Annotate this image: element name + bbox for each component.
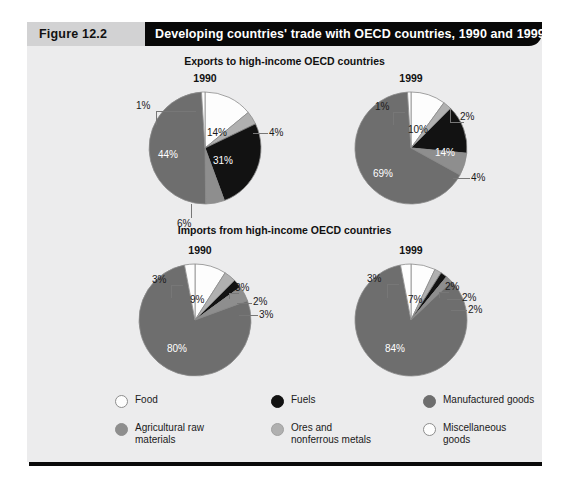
figure-header: Figure 12.2 Developing countries' trade … xyxy=(27,22,542,46)
exports-1990-ores-label: 4% xyxy=(269,127,283,138)
imports-1990-misc-label: 3% xyxy=(152,274,166,285)
legend-item-food: Food xyxy=(115,394,158,408)
exports-1990-ores-leader xyxy=(253,133,268,134)
exports-1990-food-label: 14% xyxy=(207,127,227,138)
imports-1990-ores-leader xyxy=(229,293,239,294)
legend-swatch-agricultural-raw-materials-icon xyxy=(115,423,128,436)
bottom-rule xyxy=(29,462,542,466)
exports-1990-manufactured-label: 44% xyxy=(158,149,178,160)
exports-section-title: Exports to high-income OECD countries xyxy=(27,55,542,67)
imports-1999-manufactured-label: 84% xyxy=(385,343,405,354)
imports-section-title: Imports from high-income OECD countries xyxy=(27,224,542,236)
legend-item-agricultural-raw-materials: Agricultural raw materials xyxy=(115,422,215,445)
imports-1999-agri-label: 2% xyxy=(468,304,482,315)
legend-swatch-food-icon xyxy=(115,395,128,408)
exports-1999-ores-leader xyxy=(450,122,464,123)
imports-1990-agri-label: 3% xyxy=(259,309,273,320)
exports-1999-misc-leader xyxy=(393,112,394,125)
exports-1999-misc-leader-2 xyxy=(393,112,405,113)
imports-1999-misc-label: 3% xyxy=(367,273,381,284)
exports-1990-misc-leader xyxy=(156,111,157,125)
legend-item-manufactured-goods: Manufactured goods xyxy=(423,394,534,408)
pie-exports-1990: 1% 14% 4% 31% 6% 44% xyxy=(117,82,293,212)
pie-imports-1990: 3% 9% 3% 2% 3% 80% xyxy=(107,254,293,384)
legend-swatch-miscellaneous-goods-icon xyxy=(423,423,436,436)
legend-label-fuels: Fuels xyxy=(291,394,315,406)
exports-1999-agri-leader xyxy=(453,178,470,179)
figure-title-bar: Developing countries' trade with OECD co… xyxy=(145,22,542,46)
pie-exports-1999: 1% 10% 2% 14% 4% 69% xyxy=(323,82,509,212)
legend-swatch-manufactured-goods-icon xyxy=(423,395,436,408)
imports-1999-fuels-leader xyxy=(447,299,461,300)
imports-1990-fuels-leader xyxy=(237,303,252,304)
imports-1990-agri-leader xyxy=(239,315,258,316)
legend: Food Fuels Manufactured goods Agricultur… xyxy=(115,394,535,450)
imports-1999-food-label: 7% xyxy=(408,294,422,305)
figure-panel: Figure 12.2 Developing countries' trade … xyxy=(27,22,542,462)
exports-1990-agri-leader xyxy=(191,204,192,218)
legend-label-food: Food xyxy=(135,394,158,406)
exports-1999-fuels-label: 14% xyxy=(435,147,455,158)
exports-1990-misc-label: 1% xyxy=(136,100,150,111)
imports-1999-misc-leader xyxy=(387,284,388,298)
imports-1990-ores-leader-2 xyxy=(229,293,230,299)
imports-1999-ores-leader xyxy=(439,292,449,293)
imports-1990-food-label: 9% xyxy=(190,294,204,305)
imports-1990-fuels-label: 2% xyxy=(253,296,267,307)
exports-1999-food-label: 10% xyxy=(408,124,428,135)
imports-1990-misc-leader-2 xyxy=(171,285,183,286)
legend-swatch-ores-and-nonferrous-metals-icon xyxy=(271,423,284,436)
legend-item-ores-and-nonferrous-metals: Ores and nonferrous metals xyxy=(271,422,381,445)
figure-number-box: Figure 12.2 xyxy=(27,22,145,46)
exports-1999-manufactured-label: 69% xyxy=(373,168,393,179)
exports-1990-misc-leader-2 xyxy=(156,111,196,112)
legend-label-ores-and-nonferrous-metals: Ores and nonferrous metals xyxy=(291,422,381,445)
legend-label-manufactured-goods: Manufactured goods xyxy=(443,394,534,406)
imports-1990-misc-leader xyxy=(171,285,172,298)
imports-1999-misc-leader-2 xyxy=(387,284,399,285)
legend-swatch-fuels-icon xyxy=(271,395,284,408)
figure-number-label: Figure 12.2 xyxy=(27,27,107,41)
imports-1990-ores-label: 3% xyxy=(235,282,249,293)
legend-label-agricultural-raw-materials: Agricultural raw materials xyxy=(135,422,215,445)
legend-item-miscellaneous-goods: Miscellaneous goods xyxy=(423,422,535,445)
legend-item-fuels: Fuels xyxy=(271,394,315,408)
figure-title-label: Developing countries' trade with OECD co… xyxy=(145,27,545,41)
imports-1999-agri-leader xyxy=(451,310,467,311)
exports-1999-agri-label: 4% xyxy=(471,172,485,183)
legend-label-miscellaneous-goods: Miscellaneous goods xyxy=(443,422,535,445)
pie-imports-1999: 3% 7% 2% 2% 2% 84% xyxy=(323,254,509,384)
exports-1999-ores-leader-2 xyxy=(450,109,451,122)
imports-1999-fuels-label: 2% xyxy=(462,292,476,303)
imports-1999-ores-label: 2% xyxy=(445,281,459,292)
exports-1999-misc-label: 1% xyxy=(375,101,389,112)
pie-imports-1999-svg xyxy=(323,254,509,384)
exports-1999-ores-label: 2% xyxy=(460,111,474,122)
imports-1999-ores-leader-2 xyxy=(439,292,440,298)
exports-1990-fuels-label: 31% xyxy=(213,155,233,166)
imports-1990-manufactured-label: 80% xyxy=(167,343,187,354)
pie-exports-1999-svg xyxy=(323,82,509,212)
